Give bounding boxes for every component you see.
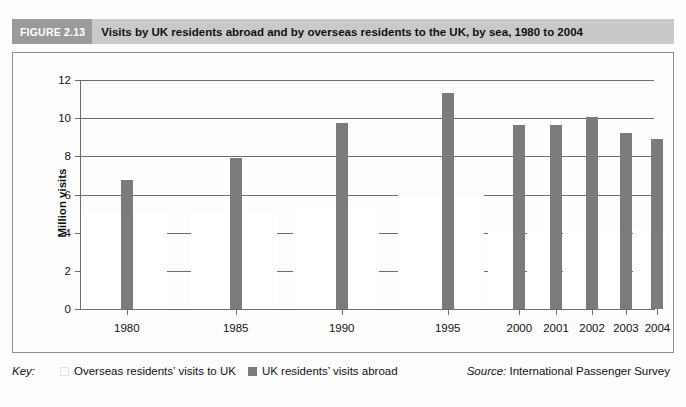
x-axis-tick	[448, 309, 449, 315]
figure-container: FIGURE 2.13 Visits by UK residents abroa…	[0, 0, 686, 407]
y-axis-tick	[75, 80, 81, 81]
x-axis-tick	[342, 309, 343, 315]
x-axis-tick	[626, 309, 627, 315]
key-label: Key:	[12, 365, 60, 377]
legend-item-overseas: Overseas residents’ visits to UK	[60, 365, 236, 377]
bar-uk-1980	[121, 180, 133, 309]
bar-uk-1990	[336, 123, 348, 309]
figure-title-band: FIGURE 2.13 Visits by UK residents abroa…	[12, 19, 674, 44]
x-axis-tick-label: 2001	[543, 322, 569, 334]
legend-item-uk: UK residents’ visits abroad	[248, 365, 398, 377]
x-axis-tick-label: 1980	[114, 322, 140, 334]
y-axis-tick-label: 0	[65, 303, 71, 315]
gridline	[81, 309, 654, 310]
x-axis-tick-label: 2003	[613, 322, 639, 334]
x-axis-tick	[556, 309, 557, 315]
chart-panel: Million visits 024681012 198019851990199…	[12, 52, 674, 353]
y-axis-tick-label: 6	[65, 189, 71, 201]
figure-title: Visits by UK residents abroad and by ove…	[92, 26, 583, 38]
light-swatch-icon	[60, 367, 69, 376]
y-axis-tick	[75, 195, 81, 196]
x-axis-tick-label: 2002	[579, 322, 605, 334]
bar-uk-2001	[550, 125, 562, 309]
x-axis-tick-label: 2004	[645, 322, 671, 334]
bar-uk-2003	[620, 133, 632, 309]
x-axis-tick	[127, 309, 128, 315]
legend-label-uk: UK residents’ visits abroad	[262, 365, 398, 377]
y-axis-tick-label: 12	[58, 74, 71, 86]
bar-uk-1995	[442, 93, 454, 309]
x-axis-tick-label: 1995	[435, 322, 461, 334]
y-axis-tick	[75, 309, 81, 310]
y-axis-tick-label: 10	[58, 112, 71, 124]
source-prefix: Source:	[467, 365, 507, 377]
bar-uk-2000	[513, 125, 525, 309]
x-axis-tick-label: 1990	[329, 322, 355, 334]
source-note: Source: International Passenger Survey	[467, 365, 670, 377]
y-axis-tick-label: 8	[65, 150, 71, 162]
y-axis-tick	[75, 156, 81, 157]
bar-uk-2002	[586, 117, 598, 309]
x-axis-tick-label: 2000	[507, 322, 533, 334]
gridline	[81, 80, 654, 81]
x-axis-tick	[657, 309, 658, 315]
source-text: International Passenger Survey	[510, 365, 670, 377]
plot-area: 024681012 198019851990199520002001200220…	[81, 80, 654, 309]
y-axis-tick-label: 2	[65, 265, 71, 277]
legend-label-overseas: Overseas residents’ visits to UK	[74, 365, 236, 377]
figure-footer: Key: Overseas residents’ visits to UK UK…	[12, 360, 674, 382]
bar-uk-1985	[230, 158, 242, 309]
x-axis-tick	[236, 309, 237, 315]
bar-uk-2004	[651, 139, 663, 309]
gridline	[81, 156, 654, 157]
y-axis-tick	[75, 118, 81, 119]
figure-number-badge: FIGURE 2.13	[12, 19, 92, 44]
x-axis-tick-label: 1985	[223, 322, 249, 334]
gridline	[81, 118, 654, 119]
y-axis-tick-label: 4	[65, 227, 71, 239]
x-axis-tick	[592, 309, 593, 315]
gridline	[81, 195, 654, 196]
dark-swatch-icon	[248, 367, 257, 376]
x-axis-tick	[519, 309, 520, 315]
